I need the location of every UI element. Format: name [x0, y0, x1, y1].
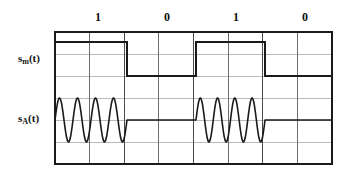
ask-waveform-figure: 1 0 1 0 sm(t) sA(t) [0, 0, 348, 178]
waveform-plot [0, 0, 348, 178]
